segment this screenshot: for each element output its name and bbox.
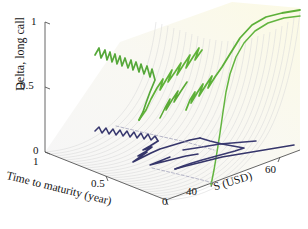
y-tick-60: 60	[265, 164, 276, 175]
x-tick-05: 0.5	[91, 178, 105, 189]
delta-surface	[45, 2, 300, 200]
x-tick-1: 1	[33, 156, 39, 167]
surface-fill	[45, 2, 300, 200]
figure-caption	[0, 219, 308, 229]
z-tick-1: 1	[31, 16, 37, 27]
z-tick-05: 0.5	[20, 80, 34, 91]
y-tick-40: 40	[186, 186, 197, 197]
plot-canvas	[0, 0, 308, 229]
x-tick-0: 0	[162, 196, 168, 207]
figure-3d-surface-plot: Delta, long call 1 0.5 0 1 0.5 0 40 60 T…	[0, 0, 308, 229]
